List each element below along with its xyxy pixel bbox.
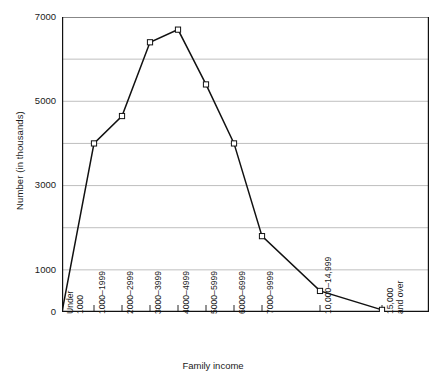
data-point-3: [147, 40, 152, 45]
x-tick-label-line1: 3000–3999: [153, 271, 163, 314]
data-point-5: [203, 82, 208, 87]
data-point-6: [231, 141, 236, 146]
x-tick-label-line2: and over: [396, 281, 406, 314]
family-income-line-chart: Number (in thousands) 7000 5000 3000 100…: [0, 0, 442, 383]
x-tick-label-line1: 1000–1999: [97, 271, 107, 314]
y-tick-label-1000: 1000: [22, 265, 56, 275]
x-axis-title: Family income: [182, 360, 243, 371]
x-tick-label-9: 15,000and over: [386, 281, 405, 314]
x-tick-label-line1: 4000–4999: [181, 271, 191, 314]
y-tick-label-5000: 5000: [22, 96, 56, 106]
data-point-4: [175, 27, 180, 32]
plot-svg: [62, 17, 429, 312]
x-tick-label-7: 7000–9999: [266, 271, 276, 314]
x-tick-label-8: 10,000–14,999: [324, 257, 334, 314]
x-tick-label-line2: 1000: [76, 291, 86, 314]
x-tick-label-line1: 7000–9999: [265, 271, 275, 314]
x-tick-label-1: 1000–1999: [98, 271, 108, 314]
x-tick-label-4: 4000–4999: [182, 271, 192, 314]
x-tick-label-6: 6000–6999: [238, 271, 248, 314]
data-point-7: [259, 234, 264, 239]
x-tick-label-line1: 2000–2999: [125, 271, 135, 314]
y-tick-label-3000: 3000: [22, 180, 56, 190]
data-point-8: [317, 288, 322, 293]
x-tick-label-line1: 5000–5999: [209, 271, 219, 314]
gridlines: [63, 17, 429, 270]
x-tick-label-line1: 10,000–14,999: [323, 257, 333, 314]
plot-area: [62, 17, 429, 312]
x-axis-title-wrap: Family income: [0, 360, 442, 371]
x-tick-label-3: 3000–3999: [154, 271, 164, 314]
x-tick-label-5: 5000–5999: [210, 271, 220, 314]
x-tick-label-2: 2000–2999: [126, 271, 136, 314]
x-axis-tick-labels: Under10001000–19992000–29993000–39994000…: [62, 314, 442, 362]
data-point-9: [379, 307, 384, 312]
data-point-markers: [91, 27, 384, 312]
x-tick-label-line1: Under: [65, 291, 75, 314]
data-point-1: [91, 141, 96, 146]
x-tick-label-line1: 6000–6999: [237, 271, 247, 314]
y-tick-label-7000: 7000: [22, 12, 56, 22]
x-tick-label-0: Under1000: [66, 291, 85, 314]
x-tick-label-line1: 15,000: [385, 288, 395, 314]
y-tick-label-0: 0: [22, 307, 56, 317]
y-axis-tick-labels: 7000 5000 3000 1000 0: [20, 0, 56, 383]
data-point-2: [119, 113, 124, 118]
